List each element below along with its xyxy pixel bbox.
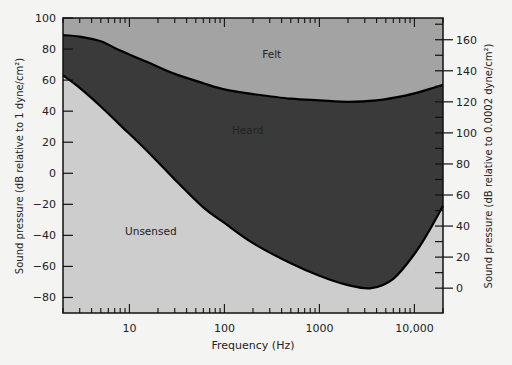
left-y-axis-title: Sound pressure (dB relative to 1 dyne/cm… xyxy=(14,58,25,274)
x-tick-label: 1000 xyxy=(305,322,333,335)
left-tick-label: −40 xyxy=(33,229,56,242)
right-tick-label: 120 xyxy=(456,96,477,109)
right-y-axis-title: Sound pressure (dB relative to 0.0002 dy… xyxy=(483,43,494,288)
right-tick-label: 80 xyxy=(456,158,470,171)
right-tick-label: 20 xyxy=(456,251,470,264)
plot-regions xyxy=(63,18,443,313)
left-tick-label: 100 xyxy=(35,12,56,25)
right-tick-label: 60 xyxy=(456,189,470,202)
right-tick-label: 0 xyxy=(456,282,463,295)
left-tick-label: 80 xyxy=(42,43,56,56)
right-tick-label: 160 xyxy=(456,34,477,47)
left-tick-label: −60 xyxy=(33,260,56,273)
left-tick-label: −80 xyxy=(33,291,56,304)
x-tick-label: 10 xyxy=(122,322,136,335)
chart-canvas: 100806040200−20−40−60−80 160140120100806… xyxy=(0,0,512,365)
left-tick-label: 20 xyxy=(42,136,56,149)
right-tick-label: 40 xyxy=(456,220,470,233)
x-axis-title: Frequency (Hz) xyxy=(212,339,295,352)
left-tick-label: −20 xyxy=(33,198,56,211)
right-tick-label: 140 xyxy=(456,65,477,78)
heard-region-label: Heard xyxy=(232,124,264,136)
left-tick-label: 60 xyxy=(42,74,56,87)
x-tick-label: 10,000 xyxy=(395,322,434,335)
x-tick-label: 100 xyxy=(214,322,235,335)
hearing-thresholds-chart: 100806040200−20−40−60−80 160140120100806… xyxy=(0,0,512,365)
left-tick-label: 40 xyxy=(42,105,56,118)
felt-region-label: Felt xyxy=(262,48,281,60)
left-tick-label: 0 xyxy=(49,167,56,180)
right-tick-label: 100 xyxy=(456,127,477,140)
unsensed-region-label: Unsensed xyxy=(125,225,177,237)
